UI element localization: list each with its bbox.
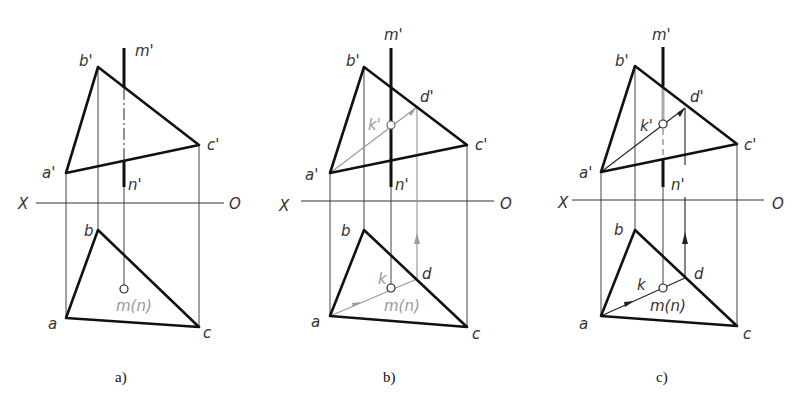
label-a-prime: a' — [305, 166, 318, 184]
arrow-up-icon — [414, 233, 420, 244]
label-c-prime: c' — [207, 136, 219, 154]
axis-label-o: O — [500, 195, 512, 213]
label-d: d — [694, 265, 704, 283]
label-b: b — [341, 222, 351, 240]
label-a: a — [48, 315, 57, 333]
label-k: k — [637, 276, 647, 294]
label-c-prime: c' — [475, 136, 487, 154]
point-mn-top — [120, 285, 128, 293]
point-mn-top — [659, 284, 667, 292]
figure-canvas: X O b' m' a' c' n' b a c m(n) a) X O — [0, 0, 795, 401]
panel-b: X O b' m' d' k' a' c' n' b d k a c m(n) … — [278, 26, 512, 386]
axis-label-o: O — [772, 195, 784, 213]
axis-label-o: O — [229, 195, 241, 213]
label-mn: m(n) — [116, 297, 152, 315]
caption-a: a) — [115, 369, 127, 386]
axis-label-x: X — [17, 195, 29, 213]
label-b: b — [614, 221, 624, 239]
label-n-prime: n' — [395, 176, 409, 194]
point-k-prime — [387, 121, 395, 129]
label-k-prime: k' — [368, 116, 381, 134]
axis-label-x: X — [557, 194, 569, 212]
triangle-front-view — [66, 67, 199, 173]
label-b-prime: b' — [79, 52, 93, 70]
projection-figure: X O b' m' a' c' n' b a c m(n) a) X O — [0, 0, 795, 401]
label-a: a — [579, 315, 588, 333]
label-n-prime: n' — [128, 176, 142, 194]
label-m-prime: m' — [135, 42, 154, 60]
label-c: c — [472, 325, 481, 343]
label-b-prime: b' — [615, 52, 629, 70]
label-a: a — [311, 313, 320, 331]
point-k-prime — [659, 120, 667, 128]
label-d-prime: d' — [420, 88, 434, 106]
label-m-prime: m' — [384, 26, 403, 44]
label-d-prime: d' — [690, 88, 704, 106]
panel-a: X O b' m' a' c' n' b a c m(n) a) — [17, 42, 241, 386]
arrow-icon — [624, 301, 634, 307]
label-c: c — [203, 324, 212, 342]
label-a-prime: a' — [579, 164, 592, 182]
label-c-prime: c' — [744, 136, 756, 154]
arrow-up-icon — [682, 232, 688, 244]
label-mn: m(n) — [650, 297, 686, 315]
point-mn-top — [387, 284, 395, 292]
axis-label-x: X — [278, 197, 290, 215]
label-m-prime: m' — [652, 26, 671, 44]
panel-c: X O b' m' d' k' a' c' n' b d k a c m(n) — [557, 26, 784, 386]
label-k-prime: k' — [640, 117, 653, 135]
arrow-icon — [352, 302, 361, 307]
label-b-prime: b' — [346, 52, 360, 70]
arrow-icon — [677, 108, 685, 117]
caption-c: c) — [656, 369, 668, 386]
label-n-prime: n' — [671, 176, 685, 194]
label-mn: m(n) — [384, 297, 420, 315]
label-d: d — [422, 265, 432, 283]
label-b: b — [84, 222, 94, 240]
label-a-prime: a' — [42, 164, 55, 182]
label-k: k — [378, 270, 388, 288]
label-c: c — [743, 325, 752, 343]
caption-b: b) — [383, 369, 396, 386]
